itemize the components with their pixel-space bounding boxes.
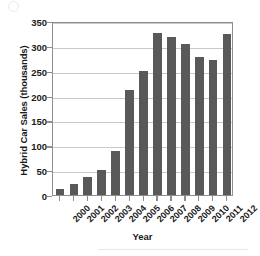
y-tick-mark bbox=[47, 97, 52, 98]
y-tick-label: 200 bbox=[13, 91, 47, 102]
y-tick-mark bbox=[47, 47, 52, 48]
x-tick-mark bbox=[59, 196, 60, 201]
y-tick-mark bbox=[47, 196, 52, 197]
x-tick-mark bbox=[198, 196, 199, 201]
bar bbox=[167, 37, 176, 195]
x-tick-mark bbox=[143, 196, 144, 201]
bar bbox=[111, 151, 120, 195]
bar bbox=[83, 177, 92, 195]
x-tick-mark bbox=[101, 196, 102, 201]
y-tick-mark bbox=[47, 146, 52, 147]
bar bbox=[56, 189, 65, 195]
bar bbox=[209, 60, 218, 195]
bar bbox=[153, 33, 162, 195]
x-tick-mark bbox=[212, 196, 213, 201]
y-tick-label: 50 bbox=[13, 166, 47, 177]
bar bbox=[97, 170, 106, 195]
y-tick-mark bbox=[47, 121, 52, 122]
scan-artifact-top-left bbox=[8, 1, 19, 12]
y-tick-label: 250 bbox=[13, 66, 47, 77]
x-tick-mark bbox=[73, 196, 74, 201]
scan-artifact-bottom bbox=[98, 249, 248, 250]
x-tick-mark bbox=[129, 196, 130, 201]
x-tick-mark bbox=[226, 196, 227, 201]
x-tick-mark bbox=[87, 196, 88, 201]
x-tick-mark bbox=[170, 196, 171, 201]
y-tick-mark bbox=[47, 22, 52, 23]
hybrid-car-sales-bar-chart: Hybrid Car Sales (thousands) 05010015020… bbox=[0, 0, 260, 256]
y-tick-label: 150 bbox=[13, 116, 47, 127]
bar bbox=[195, 57, 204, 195]
bar bbox=[70, 184, 79, 195]
bar bbox=[125, 90, 134, 195]
bars-layer bbox=[53, 23, 232, 195]
y-tick-mark bbox=[47, 171, 52, 172]
plot-area bbox=[52, 22, 233, 196]
bar bbox=[181, 44, 190, 195]
y-tick-label: 100 bbox=[13, 141, 47, 152]
x-tick-mark bbox=[115, 196, 116, 201]
y-tick-label: 350 bbox=[13, 17, 47, 28]
x-axis-title: Year bbox=[52, 231, 233, 242]
bar bbox=[223, 34, 232, 195]
x-tick-mark bbox=[184, 196, 185, 201]
bar bbox=[139, 71, 148, 195]
x-tick-mark bbox=[156, 196, 157, 201]
y-tick-label: 300 bbox=[13, 41, 47, 52]
y-tick-mark bbox=[47, 72, 52, 73]
y-tick-label: 0 bbox=[13, 191, 47, 202]
